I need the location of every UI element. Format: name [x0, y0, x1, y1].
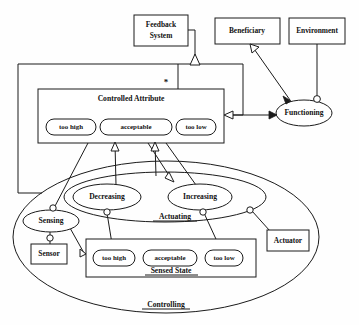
actuating-label: Actuating — [159, 212, 191, 221]
pill-sensed-too-high[interactable]: too high — [93, 250, 135, 266]
functioning-label: Functioning — [284, 108, 323, 117]
uml-feedback-system-diagram: Controlling Actuating Decreasing Increas… — [0, 0, 359, 325]
edge-beneficiary-functioning — [252, 46, 290, 100]
feedback-system-label-line2: System — [150, 31, 173, 40]
arrowhead-feedback-aggregation — [190, 54, 200, 65]
node-sensor[interactable]: Sensor — [31, 244, 67, 264]
beneficiary-label: Beneficiary — [229, 26, 265, 35]
sensing-label: Sensing — [39, 216, 64, 225]
multiplicity-star: * — [164, 77, 169, 87]
socket-increasing-bottom — [200, 209, 206, 215]
arrowhead-actuating-from-acceptable — [165, 172, 174, 182]
actuator-label: Actuator — [274, 236, 303, 245]
node-functioning[interactable]: Functioning — [276, 100, 332, 126]
feedback-system-label-line1: Feedback — [146, 20, 177, 29]
container-controlled-attribute[interactable]: Controlled Attribute too high acceptable… — [38, 89, 224, 143]
pill-controlled-too-high[interactable]: too high — [46, 119, 96, 135]
node-decreasing[interactable]: Decreasing — [73, 184, 141, 210]
edge-sensing-sensed-state — [70, 228, 84, 253]
diagram-canvas: Controlling Actuating Decreasing Increas… — [0, 0, 359, 325]
pill-sensed-acceptable[interactable]: acceptable — [143, 250, 197, 266]
arrowhead-layer: * — [47, 44, 321, 257]
controlling-label: Controlling — [147, 300, 185, 309]
socket-decreasing-bottom — [104, 209, 110, 215]
socket-sensing-sensor — [47, 235, 53, 241]
node-sensing[interactable]: Sensing — [23, 210, 79, 232]
controlled-attribute-label: Controlled Attribute — [98, 94, 165, 103]
pill-controlled-acceptable[interactable]: acceptable — [100, 119, 172, 135]
pill-controlled-too-low[interactable]: too low — [176, 119, 216, 135]
socket-environment-functioning — [314, 96, 321, 103]
edge-actuating-actuator — [252, 211, 270, 231]
node-feedback-system[interactable]: Feedback System — [134, 15, 188, 46]
container-sensed-state[interactable]: Sensed State too high acceptable too low — [86, 239, 256, 277]
decreasing-label: Decreasing — [89, 192, 125, 201]
arrowhead-controlled-attribute-left — [224, 111, 233, 119]
node-actuator[interactable]: Actuator — [267, 230, 309, 251]
controlled-too-low-label: too low — [185, 123, 206, 130]
sensed-too-high-label: too high — [102, 254, 126, 261]
sensor-label: Sensor — [38, 249, 60, 258]
node-increasing[interactable]: Increasing — [168, 184, 232, 210]
socket-actuating-actuator — [247, 207, 253, 213]
sensed-state-label: Sensed State — [151, 266, 192, 275]
sensed-too-low-label: too low — [213, 254, 234, 261]
controlled-acceptable-label: acceptable — [121, 123, 152, 130]
socket-sensing-top — [50, 205, 56, 211]
sensed-acceptable-label: acceptable — [155, 254, 186, 261]
environment-label: Environment — [296, 26, 338, 35]
controlled-too-high-label: too high — [59, 123, 83, 130]
node-environment[interactable]: Environment — [289, 18, 345, 44]
pill-sensed-too-low[interactable]: too low — [205, 250, 243, 266]
arrowhead-beneficiary — [250, 44, 259, 53]
node-beneficiary[interactable]: Beneficiary — [215, 18, 280, 44]
increasing-label: Increasing — [183, 192, 217, 201]
